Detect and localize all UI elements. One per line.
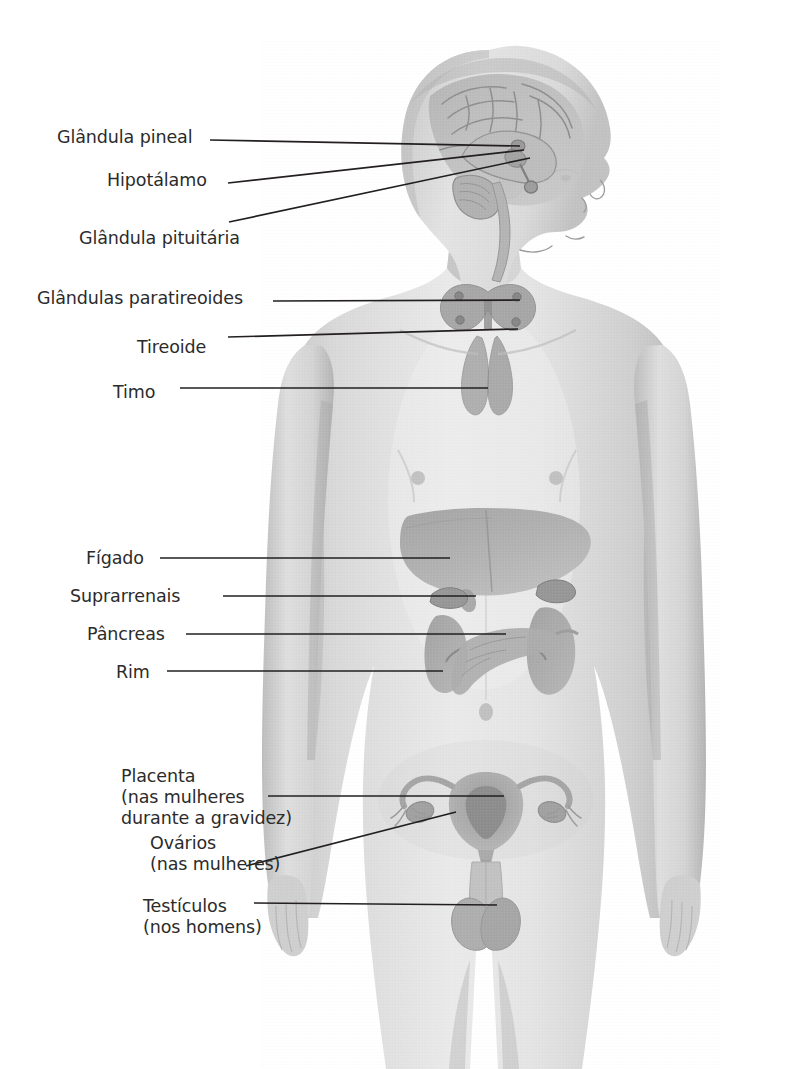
label-suprarrenais: Suprarrenais <box>70 586 180 607</box>
label-placenta-line-2: (nas mulheres <box>121 787 292 808</box>
label-pituitaria-line-1: Glândula pituitária <box>79 228 240 249</box>
label-testiculos-line-1: Testículos <box>143 896 262 917</box>
label-pineal: Glândula pineal <box>57 127 193 148</box>
label-hipotalamo-line-1: Hipotálamo <box>107 170 207 191</box>
label-paratireoides-line-1: Glândulas paratireoides <box>37 288 243 309</box>
label-pineal-line-1: Glândula pineal <box>57 127 193 148</box>
label-figado: Fígado <box>86 548 144 569</box>
label-ovarios-line-2: (nas mulheres) <box>150 854 280 875</box>
label-pancreas-line-1: Pâncreas <box>87 624 165 645</box>
label-placenta-line-3: durante a gravidez) <box>121 808 292 829</box>
label-timo: Timo <box>113 382 155 403</box>
label-rim-line-1: Rim <box>116 662 150 683</box>
label-hipotalamo: Hipotálamo <box>107 170 207 191</box>
label-ovarios: Ovários(nas mulheres) <box>150 833 280 875</box>
label-testiculos: Testículos(nos homens) <box>143 896 262 938</box>
label-paratireoides: Glândulas paratireoides <box>37 288 243 309</box>
label-tireoide: Tireoide <box>137 337 206 358</box>
leader-line-paratireoides <box>273 300 520 301</box>
label-timo-line-1: Timo <box>113 382 155 403</box>
label-rim: Rim <box>116 662 150 683</box>
label-pituitaria: Glândula pituitária <box>79 228 240 249</box>
label-figado-line-1: Fígado <box>86 548 144 569</box>
label-suprarrenais-line-1: Suprarrenais <box>70 586 180 607</box>
label-placenta-line-1: Placenta <box>121 766 292 787</box>
label-placenta: Placenta(nas mulheresdurante a gravidez) <box>121 766 292 829</box>
halftone-texture <box>260 40 720 1069</box>
label-ovarios-line-1: Ovários <box>150 833 280 854</box>
label-pancreas: Pâncreas <box>87 624 165 645</box>
label-tireoide-line-1: Tireoide <box>137 337 206 358</box>
anatomy-illustration <box>0 0 792 1069</box>
label-testiculos-line-2: (nos homens) <box>143 917 262 938</box>
endocrine-system-figure: Glândula pinealHipotálamoGlândula pituit… <box>0 0 792 1069</box>
